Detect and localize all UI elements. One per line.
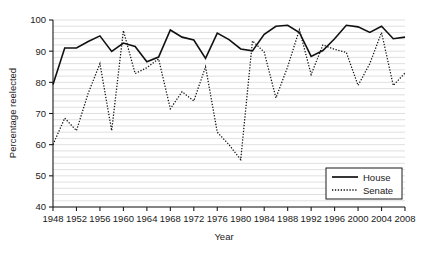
x-tick-label: 2008 xyxy=(394,213,415,224)
x-tick-label: 2004 xyxy=(371,213,392,224)
x-tick-label: 1980 xyxy=(230,213,251,224)
x-tick-label: 1948 xyxy=(42,213,63,224)
y-tick-label: 100 xyxy=(30,14,46,25)
chart-container: 405060708090100 194819521956196019641968… xyxy=(0,0,424,253)
x-axis-title: Year xyxy=(214,231,233,242)
x-tick-label: 1960 xyxy=(113,213,134,224)
y-tick-label: 80 xyxy=(35,77,46,88)
x-tick-label: 1968 xyxy=(160,213,181,224)
x-tick-label: 1956 xyxy=(89,213,110,224)
x-tick-label: 2000 xyxy=(347,213,368,224)
y-axis-title: Percentage reelected xyxy=(7,68,18,158)
x-tick-label: 1976 xyxy=(207,213,228,224)
x-tick-label: 1992 xyxy=(301,213,322,224)
y-tick-label: 90 xyxy=(35,46,46,57)
y-tick-label: 70 xyxy=(35,108,46,119)
line-chart: 405060708090100 194819521956196019641968… xyxy=(0,0,424,253)
x-tick-label: 1984 xyxy=(254,213,275,224)
x-tick-label: 1952 xyxy=(66,213,87,224)
y-tick-label: 50 xyxy=(35,170,46,181)
x-tick-label: 1964 xyxy=(136,213,157,224)
legend: House Senate xyxy=(326,168,402,199)
y-tick-label: 60 xyxy=(35,139,46,150)
x-tick-label: 1996 xyxy=(324,213,345,224)
x-tick-label: 1972 xyxy=(183,213,204,224)
legend-label-house: House xyxy=(363,172,390,183)
legend-label-senate: Senate xyxy=(363,185,393,196)
x-tick-label: 1988 xyxy=(277,213,298,224)
y-tick-label: 40 xyxy=(35,201,46,212)
